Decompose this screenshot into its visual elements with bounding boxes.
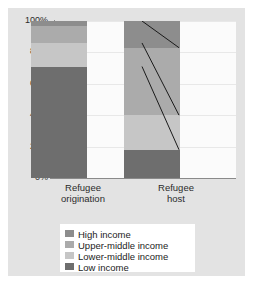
legend-item[interactable]: Lower-middle income [65,250,168,261]
legend-item[interactable]: Upper-middle income [65,239,168,250]
legend-item[interactable]: High income [65,228,131,239]
legend-swatch-icon [65,263,74,270]
x-axis-label-line: Refugee [33,182,133,193]
x-axis-label-line: origination [33,193,133,204]
chart-figure: 0%20%40%60%80%100% Refugeeorigination Re… [0,0,269,298]
x-axis-line [54,178,236,179]
legend-swatch-icon [65,230,74,237]
segment-connector-lines [55,21,236,178]
x-axis-label-refugee-host: Refugeehost [126,182,226,204]
legend-swatch-icon [65,252,74,259]
x-axis-label-line: host [126,193,226,204]
legend-label: Low income [78,262,129,273]
x-axis-label-refugee-origination: Refugeeorigination [33,182,133,204]
chart-legend: High incomeUpper-middle incomeLower-midd… [60,224,195,272]
connector-line [142,21,179,48]
legend-item[interactable]: Low income [65,261,129,272]
legend-swatch-icon [65,241,74,248]
x-axis-label-line: Refugee [126,182,226,193]
